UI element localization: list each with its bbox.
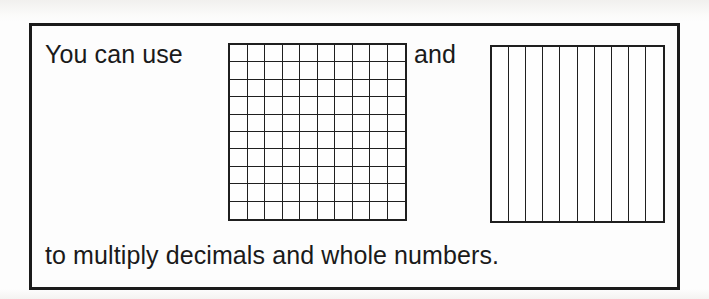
grid-cell: [335, 115, 353, 132]
grid-cell: [318, 115, 336, 132]
grid-cell: [370, 202, 388, 219]
grid-cell: [318, 62, 336, 79]
grid-cell: [335, 62, 353, 79]
grid-cell: [265, 62, 283, 79]
grid-cell: [230, 132, 248, 149]
grid-cell: [265, 202, 283, 219]
grid-cell: [388, 80, 406, 97]
grid-cell: [388, 97, 406, 114]
grid-cell: [318, 80, 336, 97]
grid-cell: [265, 132, 283, 149]
grid-cell: [283, 97, 301, 114]
grid-cell: [646, 47, 663, 221]
grid-cell: [370, 132, 388, 149]
grid-cell: [335, 167, 353, 184]
grid-cell: [300, 167, 318, 184]
grid-cell: [230, 167, 248, 184]
grid-cell: [300, 45, 318, 62]
grid-cell: [388, 45, 406, 62]
grid-cell: [370, 184, 388, 201]
grid-cell: [370, 167, 388, 184]
grid-cell: [526, 47, 543, 221]
callout-top-row: You can use and: [32, 26, 677, 222]
conjunction-text: and: [414, 40, 456, 68]
grid-cell: [388, 167, 406, 184]
lead-text: You can use: [45, 40, 183, 68]
grid-cell: [318, 45, 336, 62]
grid-cell: [265, 97, 283, 114]
grid-cell: [353, 167, 371, 184]
callout-box: You can use and to multiply decimals and…: [29, 23, 680, 290]
grid-cell: [629, 47, 646, 221]
grid-cell: [283, 202, 301, 219]
grid-cell: [318, 149, 336, 166]
grid-cell: [248, 149, 266, 166]
grid-cell: [230, 149, 248, 166]
grid-cell: [388, 149, 406, 166]
grid-cell: [230, 115, 248, 132]
grid-cell: [230, 184, 248, 201]
grid-cell: [265, 45, 283, 62]
grid-cell: [353, 45, 371, 62]
grid-cell: [230, 97, 248, 114]
grid-cell: [265, 149, 283, 166]
grid-cell: [248, 167, 266, 184]
grid-cell: [265, 80, 283, 97]
grid-cell: [353, 202, 371, 219]
grid-cell: [353, 97, 371, 114]
grid-cell: [370, 115, 388, 132]
grid-cell: [353, 184, 371, 201]
hundredths-grid-figure: [228, 43, 407, 221]
grid-cell: [353, 149, 371, 166]
grid-cell: [335, 132, 353, 149]
grid-cell: [230, 62, 248, 79]
grid-cell: [370, 45, 388, 62]
grid-cell: [230, 45, 248, 62]
grid-cell: [283, 45, 301, 62]
grid-cell: [300, 97, 318, 114]
grid-cell: [283, 167, 301, 184]
caption-text: to multiply decimals and whole numbers.: [45, 241, 499, 269]
grid-cell: [388, 115, 406, 132]
grid-cell: [248, 202, 266, 219]
grid-cell: [300, 202, 318, 219]
grid-cell: [265, 184, 283, 201]
grid-cell: [318, 184, 336, 201]
grid-cell: [248, 115, 266, 132]
grid-cell: [370, 97, 388, 114]
grid-cell: [300, 62, 318, 79]
grid-cell: [318, 97, 336, 114]
grid-cell: [283, 149, 301, 166]
grid-cell: [300, 132, 318, 149]
grid-cell: [560, 47, 577, 221]
grid-cell: [265, 167, 283, 184]
grid-cell: [230, 202, 248, 219]
grid-cell: [353, 115, 371, 132]
grid-cell: [388, 184, 406, 201]
grid-cell: [318, 167, 336, 184]
grid-cell: [318, 202, 336, 219]
grid-cell: [335, 202, 353, 219]
grid-cell: [300, 80, 318, 97]
grid-cell: [283, 62, 301, 79]
grid-cell: [370, 80, 388, 97]
grid-cell: [248, 62, 266, 79]
grid-cell: [353, 80, 371, 97]
grid-cell: [283, 115, 301, 132]
grid-cell: [595, 47, 612, 221]
grid-cell: [283, 132, 301, 149]
grid-cell: [248, 97, 266, 114]
grid-cell: [300, 115, 318, 132]
grid-cell: [265, 115, 283, 132]
grid-cell: [300, 184, 318, 201]
grid-cell: [388, 62, 406, 79]
grid-cell: [335, 184, 353, 201]
grid-cell: [578, 47, 595, 221]
grid-cell: [335, 80, 353, 97]
grid-cell: [612, 47, 629, 221]
grid-cell: [230, 80, 248, 97]
grid-cell: [318, 132, 336, 149]
grid-cell: [388, 202, 406, 219]
grid-cell: [335, 45, 353, 62]
grid-cell: [388, 132, 406, 149]
